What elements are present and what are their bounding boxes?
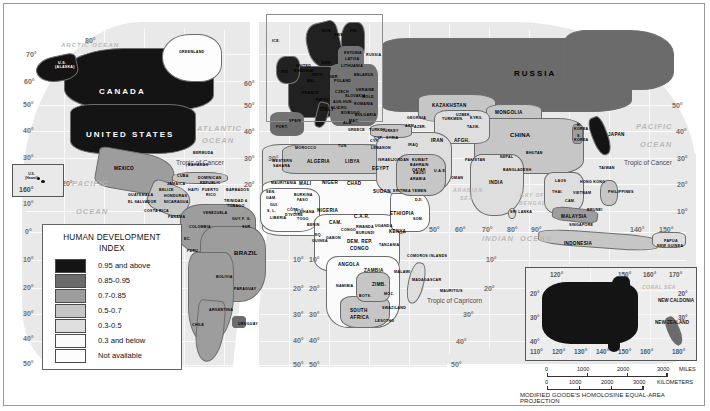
country-label: ANGOLA [338, 263, 360, 268]
country-label: COLOMBIA [189, 226, 211, 230]
country-label: KYRG. [470, 117, 483, 121]
country-label: CHILE [192, 324, 204, 328]
scale-label-miles-0: 0 [545, 366, 548, 372]
scale-bar-kilometers: 0 1000 2000 3000 KILOMETERS [529, 379, 709, 392]
graticule-label: 50° [429, 226, 440, 233]
hawaii-inset: U.S. (Hawaii) 160° [12, 164, 64, 197]
country-label: LATVIA [345, 58, 360, 62]
hawaii-island-dot [37, 177, 40, 180]
country-label: GAM. [266, 197, 277, 201]
country-label: MOROCCO [295, 147, 316, 151]
country-label: VIETNAM [573, 192, 591, 196]
country-label: YEMEN [412, 190, 426, 194]
graticule-label: 20° [677, 181, 688, 188]
country-label: SINGAPORE [569, 224, 593, 228]
australia-longitude-label: 160° [640, 348, 653, 355]
country-label: INDONESIA [564, 242, 592, 247]
country-label: ROMANIA [354, 103, 373, 107]
country-label: PAKISTAN [465, 159, 485, 163]
country-label: LEBANON [371, 147, 391, 151]
country-label: GREECE [348, 129, 365, 133]
graticule-label: 90° [531, 226, 542, 233]
australia-longitude-label: 120° [550, 271, 563, 278]
country-label: CONGO [350, 247, 369, 252]
country-label: PORT. [276, 126, 288, 130]
country-label: CUBA [177, 175, 189, 179]
country-label: CHAD [347, 182, 361, 187]
country-label: ITALY [320, 108, 334, 113]
scale-tick [547, 373, 548, 377]
graticule-label: 20° [484, 285, 495, 292]
country-label: MONGOLIA [495, 111, 523, 116]
legend-title: HUMAN DEVELOPMENT INDEX [43, 225, 181, 254]
country-label: SEN. [266, 191, 276, 195]
country-label: EC. [184, 238, 191, 242]
country-label: ARGENTINA [209, 309, 233, 313]
country-label: GER. [329, 76, 339, 80]
australia-latitude-label: 30° [530, 314, 540, 321]
legend-label: 0.3 and below [98, 336, 145, 345]
legend-row: 0.85-0.95 [55, 273, 181, 288]
country-label: U.A.E. [434, 170, 446, 174]
country-label: LITHUANIA [341, 65, 363, 69]
legend-swatch [55, 349, 86, 363]
country-label: DEN. [322, 62, 332, 66]
graticule-label: 50° [23, 101, 34, 108]
scale-unit-miles: MILES [679, 366, 696, 372]
country-label: ISRAEL [378, 159, 393, 163]
country-label: SPAIN [289, 120, 301, 124]
country-label: NEPAL [500, 156, 513, 160]
graticule-label: 10° [677, 208, 688, 215]
country-label: ESTONIA [344, 52, 362, 56]
graticule-label: 20° [23, 284, 34, 291]
graticule-label: 50° [293, 361, 304, 368]
country-label: GUINEA [312, 240, 328, 244]
country-label: BEL. [307, 80, 316, 84]
landmass-russia-far-east [564, 30, 674, 90]
country-label: TAJIK. [467, 126, 480, 130]
graticule-label: 50° [244, 102, 255, 109]
country-label: NIGER [322, 181, 338, 186]
country-label: AUS. [333, 101, 343, 105]
country-label: BANGLADESH [503, 169, 531, 173]
country-label: UGANDA [375, 225, 393, 229]
country-label: CAM. [565, 200, 575, 204]
legend-row: 0.5-0.7 [55, 303, 181, 318]
country-label: F. G. [242, 218, 251, 222]
country-label: MOZ. [384, 293, 394, 297]
country-label: QATAR [412, 169, 426, 173]
country-label: KINGDOM [294, 70, 313, 74]
country-label: AZER. [414, 126, 426, 130]
country-label: BELARUS [354, 74, 373, 78]
legend-label: Not available [98, 351, 142, 360]
country-label: BULGARIA [355, 114, 376, 118]
country-label: RWANDA [356, 226, 374, 230]
country-label: UZBEK. [456, 114, 471, 118]
country-label: KOREA [574, 139, 588, 143]
graticule-label: 60° [244, 80, 255, 87]
country-label: KENYA [389, 230, 406, 235]
country-label: FIN. [350, 30, 358, 34]
hawaii-meridian-label: 160° [19, 186, 33, 193]
country-label: GUATEMALA [128, 194, 153, 198]
country-label: NEW GUINEA [657, 245, 683, 249]
graticule-label: 80° [85, 37, 96, 44]
country-label: POLAND [334, 80, 351, 84]
country-label: (ALASKA) [55, 66, 75, 70]
scale-tick [587, 373, 588, 377]
country-label: MEXICO [114, 167, 134, 172]
ocean-label: INDIAN [482, 234, 514, 243]
country-label: NOR. [322, 30, 332, 34]
country-label: TURKMEN. [442, 118, 463, 122]
graticule-label: 50° [23, 360, 34, 367]
ocean-label: PACIFIC [72, 179, 108, 188]
country-label: PARAGUAY [234, 288, 256, 292]
country-label: GABON [326, 237, 341, 241]
scale-label-km-3000: 3000 [633, 379, 645, 385]
graticule-label: 20° [293, 285, 304, 292]
country-label: BERMUDA [193, 152, 213, 156]
country-label: UKRAINE [356, 89, 374, 93]
scale-tick [643, 386, 644, 390]
ocean-label: ATLANTIC [197, 124, 242, 133]
country-label: GREENLAND [179, 51, 204, 55]
